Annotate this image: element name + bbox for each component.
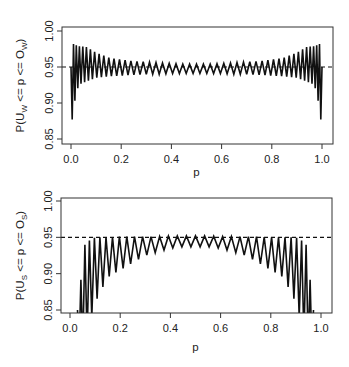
y-axis-title: P(UW <= p <= OW)	[14, 38, 29, 132]
y-axis-title-part: <= p <= O	[14, 50, 26, 105]
x-tick-label: 1.0	[314, 153, 329, 165]
plot-frame	[62, 27, 333, 144]
x-tick-label: 0.2	[114, 153, 129, 165]
chart-canvas: 0.00.20.40.60.81.00.850.900.951.00pP(UW …	[0, 0, 349, 367]
y-tick-label: 0.95	[42, 227, 54, 248]
y-tick-label: 1.00	[43, 20, 55, 41]
x-tick-label: 0.6	[213, 322, 228, 334]
x-axis-title: p	[192, 341, 198, 353]
x-tick-label: 0.2	[113, 322, 128, 334]
y-tick-label: 0.90	[43, 92, 55, 113]
x-tick-label: 0.0	[63, 153, 78, 165]
x-axis-title: p	[193, 166, 199, 178]
y-tick-label: 0.90	[42, 263, 54, 284]
y-axis-title: P(US <= p <= OS)	[14, 211, 29, 300]
x-tick-label: 1.0	[313, 322, 328, 334]
y-axis-title-part: )	[14, 211, 26, 215]
y-axis-title-part: P(U	[14, 113, 26, 133]
y-axis-title-part: <= p <= O	[14, 220, 26, 275]
y-axis-title-part: P(U	[14, 280, 26, 300]
x-tick-label: 0.8	[263, 322, 278, 334]
y-axis-title-part: )	[14, 38, 26, 42]
y-tick-label: 0.85	[42, 299, 54, 320]
x-tick-label: 0.8	[264, 153, 279, 165]
x-tick-label: 0.6	[214, 153, 229, 165]
x-tick-label: 0.4	[163, 322, 178, 334]
top-plot: 0.00.20.40.60.81.00.850.900.951.00pP(UW …	[14, 20, 333, 178]
y-tick-label: 0.85	[43, 128, 55, 149]
bottom-plot: 0.00.20.40.60.81.00.850.900.951.00pP(US …	[14, 190, 332, 353]
coverage-line	[71, 44, 322, 120]
y-tick-label: 1.00	[42, 190, 54, 211]
y-tick-label: 0.95	[43, 56, 55, 77]
x-tick-label: 0.0	[62, 322, 77, 334]
x-tick-label: 0.4	[164, 153, 179, 165]
